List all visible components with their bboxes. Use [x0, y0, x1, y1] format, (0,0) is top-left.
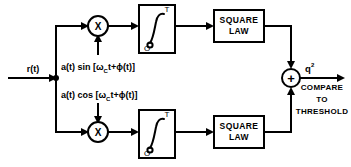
upper-square-law-label-line2: LAW: [229, 26, 250, 36]
lower-reference-text: a(t) cos [ωCt+ϕ(t)]: [61, 90, 137, 102]
decision-label-line1: COMPARE: [301, 83, 344, 92]
summer-plus-symbol: +: [287, 71, 295, 86]
lower-integrator-input-arrowhead-icon: [131, 128, 139, 136]
upper-integrator-block[interactable]: T O: [139, 5, 175, 53]
upper-reference-label: a(t) sin [ωCt+ϕ(t)]: [61, 62, 135, 74]
output-label-exponent: 2: [311, 62, 315, 68]
lower-square-law-label-line1: SQUARE: [220, 121, 259, 131]
upper-reference-text: a(t) sin [ωCt+ϕ(t)]: [61, 62, 135, 74]
lower-squarer-input-arrowhead-icon: [206, 128, 214, 136]
split-junction-dot-icon: [53, 75, 59, 81]
upper-reference-tail: t+ϕ(t)]: [108, 62, 135, 72]
input-label: r(t): [27, 64, 40, 74]
output-arrowhead-icon: [337, 74, 345, 82]
block-diagram-canvas: r(t): [0, 0, 351, 167]
upper-integrator-upper-limit: T: [165, 5, 170, 14]
summing-junction[interactable]: +: [282, 69, 300, 87]
upper-multiplier-symbol: X: [95, 21, 102, 32]
lower-reference-main: a(t) cos [ω: [61, 90, 107, 100]
upper-summer-input-arrowhead-icon: [287, 61, 295, 69]
upper-squarer-input-arrowhead-icon: [206, 22, 214, 30]
upper-square-law-block[interactable]: SQUARE LAW: [214, 10, 264, 42]
input-signal-group: r(t): [8, 64, 57, 82]
lower-reference-label: a(t) cos [ωCt+ϕ(t)]: [61, 90, 137, 102]
lower-square-law-block[interactable]: SQUARE LAW: [214, 116, 264, 148]
decision-label-line2: TO: [316, 95, 328, 104]
decision-label-line3: THRESHOLD: [296, 107, 348, 116]
lower-integrator-lower-limit: O: [144, 149, 150, 158]
upper-integrator-input-arrowhead-icon: [131, 22, 139, 30]
lower-multiplier-symbol: X: [95, 127, 102, 138]
upper-wire-squarer-to-summer: [264, 26, 291, 61]
lower-integrator-block[interactable]: T O: [139, 110, 175, 158]
compare-to-threshold-label: COMPARE TO THRESHOLD: [296, 83, 348, 116]
upper-multiplier[interactable]: X: [88, 16, 108, 36]
lower-integrator-upper-limit: T: [165, 110, 170, 119]
upper-integrator-lower-limit: O: [144, 44, 150, 53]
lower-wire-squarer-to-summer: [264, 95, 291, 132]
lower-square-law-label-line2: LAW: [229, 132, 250, 142]
lower-reference-tail: t+ϕ(t)]: [110, 90, 137, 100]
upper-reference-main: a(t) sin [ω: [61, 62, 104, 72]
output-signal-group: q 2: [300, 62, 345, 82]
lower-multiplier[interactable]: X: [88, 122, 108, 142]
split-node-group: [53, 25, 59, 133]
lower-summer-input-arrowhead-icon: [287, 87, 295, 95]
block-diagram-figure: r(t): [0, 0, 351, 167]
upper-square-law-label-line1: SQUARE: [220, 15, 259, 25]
